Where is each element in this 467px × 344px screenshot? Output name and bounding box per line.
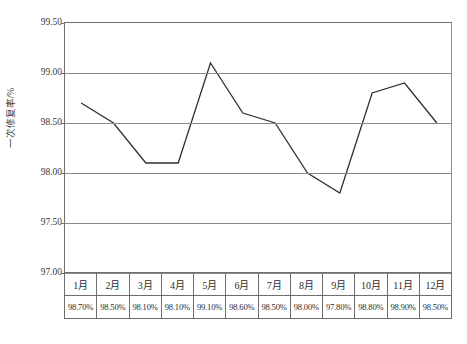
table-row-months: 1月2月3月4月5月6月7月8月9月10月11月12月 bbox=[65, 273, 452, 296]
table-cell-value: 98.60% bbox=[226, 296, 258, 319]
line-series-one-time-repair-rate bbox=[65, 23, 453, 273]
chart-figure: 一次修复率/% 99.5099.0098.5098.0097.5097.00 1… bbox=[0, 0, 467, 344]
table-cell-month: 12月 bbox=[419, 273, 451, 296]
y-axis-tick-labels: 99.5099.0098.5098.0097.5097.00 bbox=[20, 0, 62, 344]
y-axis-tick-mark bbox=[61, 123, 65, 124]
table-cell-value: 98.50% bbox=[419, 296, 451, 319]
table-cell-value: 97.80% bbox=[323, 296, 355, 319]
table-cell-month: 6月 bbox=[226, 273, 258, 296]
gridline bbox=[65, 223, 451, 224]
table-cell-month: 9月 bbox=[323, 273, 355, 296]
table-cell-month: 1月 bbox=[65, 273, 97, 296]
table-cell-month: 8月 bbox=[290, 273, 322, 296]
y-axis-tick-mark bbox=[61, 173, 65, 174]
y-axis-tick-label: 98.50 bbox=[20, 117, 62, 127]
table-cell-month: 2月 bbox=[97, 273, 129, 296]
table-cell-value: 99.10% bbox=[194, 296, 226, 319]
y-axis-tick-mark bbox=[61, 23, 65, 24]
table-cell-value: 98.10% bbox=[129, 296, 161, 319]
table-cell-value: 98.00% bbox=[290, 296, 322, 319]
gridline bbox=[65, 123, 451, 124]
table-cell-value: 98.70% bbox=[65, 296, 97, 319]
y-axis-tick-label: 97.00 bbox=[20, 267, 62, 277]
gridline bbox=[65, 73, 451, 74]
y-axis-tick-label: 99.00 bbox=[20, 67, 62, 77]
table-cell-month: 10月 bbox=[355, 273, 387, 296]
table-cell-month: 5月 bbox=[194, 273, 226, 296]
table-cell-value: 98.90% bbox=[387, 296, 419, 319]
y-axis-tick-label: 97.50 bbox=[20, 217, 62, 227]
y-axis-tick-label: 99.50 bbox=[20, 17, 62, 27]
table-cell-month: 4月 bbox=[161, 273, 193, 296]
table-cell-month: 3月 bbox=[129, 273, 161, 296]
table-cell-month: 11月 bbox=[387, 273, 419, 296]
y-axis-tick-mark bbox=[61, 73, 65, 74]
table-cell-value: 98.50% bbox=[97, 296, 129, 319]
table-row-values: 98.70%98.50%98.10%98.10%99.10%98.60%98.5… bbox=[65, 296, 452, 319]
table-cell-value: 98.50% bbox=[258, 296, 290, 319]
gridline bbox=[65, 173, 451, 174]
y-axis-tick-label: 98.00 bbox=[20, 167, 62, 177]
plot-area bbox=[64, 22, 452, 272]
y-axis-title: 一次修复率/% bbox=[3, 73, 19, 163]
data-table: 1月2月3月4月5月6月7月8月9月10月11月12月 98.70%98.50%… bbox=[64, 272, 452, 319]
table-cell-month: 7月 bbox=[258, 273, 290, 296]
y-axis-tick-mark bbox=[61, 223, 65, 224]
table-cell-value: 98.80% bbox=[355, 296, 387, 319]
table-cell-value: 98.10% bbox=[161, 296, 193, 319]
